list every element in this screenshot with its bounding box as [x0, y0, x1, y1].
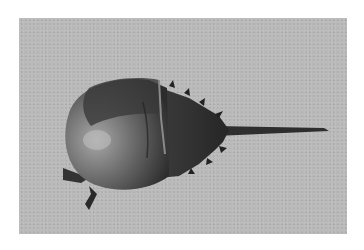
horseshoe-crab-illustration — [19, 18, 347, 234]
horseshoe-crab-photo — [19, 18, 347, 234]
